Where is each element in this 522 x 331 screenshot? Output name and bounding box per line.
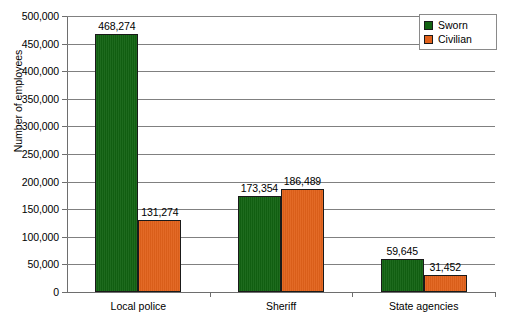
y-axis-tick-label: 400,000 (22, 65, 59, 77)
y-axis-tick-label: 350,000 (22, 93, 59, 105)
bar-state-agencies-civilian (424, 275, 467, 292)
x-axis-tick-mark (495, 292, 496, 297)
y-axis-tick-mark (62, 182, 67, 183)
y-axis-tick-mark (62, 292, 67, 293)
y-axis-tick-label: 100,000 (22, 231, 59, 243)
bar-chart: 050,000100,000150,000200,000250,000300,0… (0, 0, 522, 331)
bar-sheriff-civilian (281, 189, 324, 292)
y-axis-tick-mark (62, 154, 67, 155)
y-axis-tick-label: 0 (53, 286, 59, 298)
y-axis-tick-labels: 050,000100,000150,000200,000250,000300,0… (0, 0, 59, 331)
y-axis-title: Number of employees (12, 21, 24, 181)
x-axis-line (67, 292, 495, 293)
y-axis-tick-label: 50,000 (27, 258, 59, 270)
bar-value-label: 31,452 (412, 261, 479, 273)
legend-label-sworn: Sworn (438, 19, 468, 31)
x-axis-category-label: Sheriff (266, 300, 296, 312)
legend-item-civilian[interactable]: Civilian (424, 32, 492, 46)
x-axis-category-label: Local police (111, 300, 166, 312)
legend-swatch-sworn-icon (424, 21, 433, 30)
y-axis-tick-mark (62, 16, 67, 17)
bar-local-police-sworn (95, 34, 138, 292)
legend-label-civilian: Civilian (438, 33, 472, 45)
legend-item-sworn[interactable]: Sworn (424, 18, 492, 32)
y-axis-tick-mark (62, 99, 67, 100)
bar-value-label: 131,274 (126, 206, 193, 218)
y-axis-tick-label: 300,000 (22, 120, 59, 132)
y-axis-tick-mark (62, 44, 67, 45)
y-axis-tick-mark (62, 126, 67, 127)
y-axis-tick-label: 450,000 (22, 38, 59, 50)
bar-value-label: 468,274 (83, 20, 150, 32)
x-axis-tick-mark (352, 292, 353, 297)
legend-swatch-civilian-icon (424, 35, 433, 44)
y-axis-tick-label: 150,000 (22, 203, 59, 215)
y-axis-tick-mark (62, 71, 67, 72)
y-axis-tick-mark (62, 209, 67, 210)
y-axis-tick-mark (62, 264, 67, 265)
bar-sheriff-sworn (238, 196, 281, 292)
chart-legend: Sworn Civilian (419, 14, 497, 50)
x-axis-category-label: State agencies (389, 300, 458, 312)
bar-value-label: 59,645 (369, 245, 436, 257)
plot-area: 468,274131,274173,354186,48959,64531,452 (67, 16, 495, 292)
y-axis-tick-label: 200,000 (22, 176, 59, 188)
bar-value-label: 186,489 (269, 175, 336, 187)
bar-local-police-civilian (138, 220, 181, 292)
y-axis-tick-label: 250,000 (22, 148, 59, 160)
x-axis-tick-mark (210, 292, 211, 297)
y-axis-tick-label: 500,000 (22, 10, 59, 22)
y-axis-tick-mark (62, 237, 67, 238)
